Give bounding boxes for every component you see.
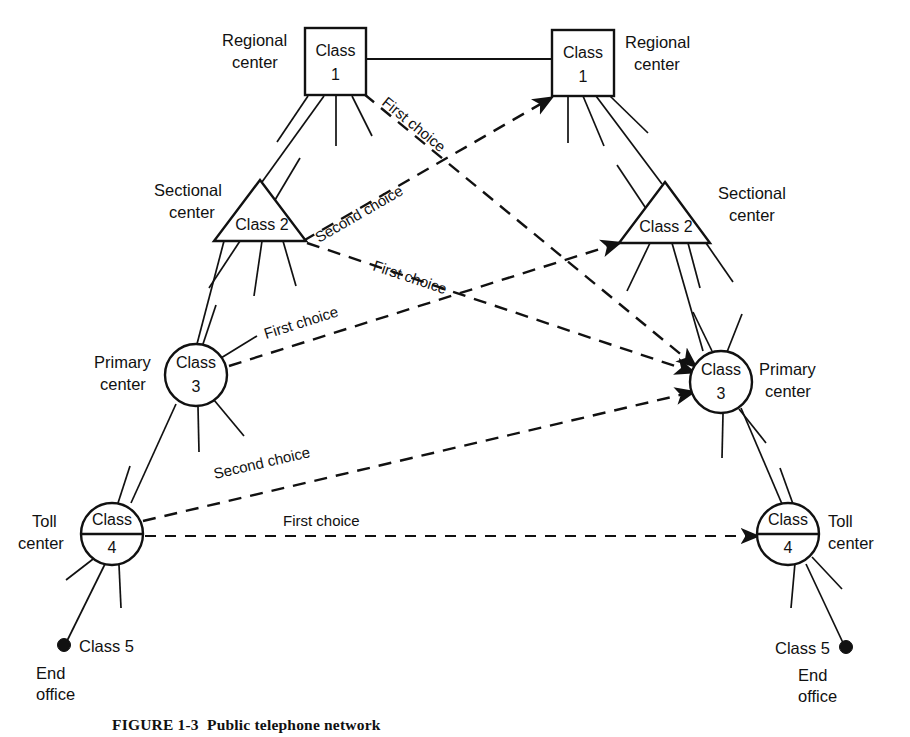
label-class3-right-line1: Primary [759,360,817,378]
label-class4-left-line1: Toll [32,512,57,530]
label-class1-right-line1: Regional [625,33,690,51]
node-class4-right-class-word: Class [768,511,808,528]
node-class1-left[interactable]: Class 1 [305,28,366,95]
route-c4l-to-c3r [143,392,693,521]
figure-caption-text: Public telephone network [207,716,381,733]
label-class3-left-line2: center [100,375,146,393]
figure-root: Class 1 Class 1 Class 2 Class 2 Class 3 [0,0,910,737]
label-class5-left: Class 5 End office [36,637,134,703]
label-class3-left: Primary center [94,353,152,393]
route-label-c3l-to-c2r: First choice [262,303,340,342]
figure-caption-number: FIGURE 1-3 [112,716,199,733]
label-class5-left-line1: End [36,664,65,682]
node-class1-left-class-number: 1 [331,66,340,83]
label-class5-left-line2: office [36,685,75,703]
node-class1-right-class-word: Class [563,44,603,61]
route-c3l-to-c2r [229,243,619,366]
node-class1-right[interactable]: Class 1 [552,30,614,96]
route-label-c4l-to-c3r: Second choice [212,443,312,482]
route-label-c4l-to-c3r-text: Second choice [212,443,312,482]
label-class4-right-line2: center [828,534,874,552]
route-label-c4l-to-c4r-text: First choice [283,512,360,529]
label-class5-right-line2: office [798,687,837,705]
node-class2-left[interactable]: Class 2 [214,180,306,241]
node-class2-left-label: Class 2 [235,216,288,233]
node-class3-left-class-number: 3 [192,378,201,395]
node-class2-right-label: Class 2 [639,218,692,235]
node-class4-left[interactable]: Class 4 [81,503,143,565]
label-class2-left-line2: center [169,203,215,221]
label-class2-right-line2: center [729,206,775,224]
node-class3-left[interactable]: Class 3 [165,344,227,406]
node-class3-right-class-word: Class [701,361,741,378]
route-label-c4l-to-c4r: First choice [283,512,360,529]
route-c2l-to-c3r [307,243,693,372]
label-class5-left-class: Class 5 [79,637,134,655]
route-label-c1l-to-c3r-text: First choice [379,93,449,155]
node-class1-left-class-word: Class [315,42,355,59]
label-class1-right-line2: center [634,55,680,73]
node-class3-right-class-number: 3 [717,385,726,402]
route-label-c2l-to-c1r-text: Second choice [312,182,406,246]
label-class1-left: Regional center [222,31,287,71]
label-class4-left: Toll center [18,512,64,552]
node-class4-right-class-number: 4 [784,539,793,556]
route-label-c2l-to-c3r-text: First choice [371,257,449,297]
route-label-c2l-to-c3r: First choice [371,257,449,297]
label-class5-right-line1: End [798,666,827,684]
node-class5-left[interactable] [58,639,71,652]
label-class3-right: Primary center [759,360,817,400]
node-class3-right[interactable]: Class 3 [690,351,752,413]
node-class4-left-class-number: 4 [108,539,117,556]
route-label-c1l-to-c3r: First choice [379,93,449,155]
figure-caption: FIGURE 1-3 Public telephone network [112,716,381,734]
node-class1-right-class-number: 1 [579,68,588,85]
label-class1-left-line2: center [232,53,278,71]
label-class2-right-line1: Sectional [718,184,786,202]
label-class4-right-line1: Toll [828,512,853,530]
node-class2-right[interactable]: Class 2 [619,182,710,243]
node-class4-right[interactable]: Class 4 [757,503,819,565]
label-class2-left-line1: Sectional [154,181,222,199]
node-class5-right[interactable] [840,641,853,654]
label-class1-right: Regional center [625,33,690,73]
network-diagram: Class 1 Class 1 Class 2 Class 2 Class 3 [0,0,910,737]
label-class2-left: Sectional center [154,181,222,221]
label-class5-right: Class 5 End office [775,639,837,705]
label-class3-right-line2: center [765,382,811,400]
node-class3-left-class-word: Class [176,354,216,371]
node-class4-left-class-word: Class [92,511,132,528]
route-label-c2l-to-c1r: Second choice [312,182,406,246]
label-class3-left-line1: Primary [94,353,152,371]
label-class4-right: Toll center [828,512,874,552]
label-class1-left-line1: Regional [222,31,287,49]
route-label-c3l-to-c2r-text: First choice [262,303,340,342]
label-class4-left-line2: center [18,534,64,552]
label-class2-right: Sectional center [718,184,786,224]
label-class5-right-class: Class 5 [775,639,830,657]
